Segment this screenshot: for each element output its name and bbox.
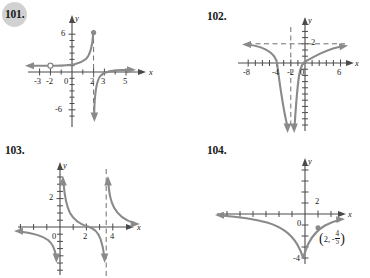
x-tick-label-103-0: 0 [52,231,56,241]
point-annotation-104: (2, -45) [319,231,345,247]
x-axis-label-104: x [348,209,352,219]
y-axis-label-102: y [308,15,312,25]
x-tick-label-101-3: 2 [90,76,94,86]
curve-right-102 [295,47,340,126]
curve-right-arrow-102 [339,43,348,50]
problem-cell-102: 102. [185,0,370,139]
curve-right-up-arrow-103 [104,176,112,186]
problem-grid: 101. [0,0,370,278]
x-tick-label-102-1: -4 [272,67,279,77]
y-axis-label-104: y [308,156,312,166]
point-annotation-close-paren: ) [340,231,345,246]
x-tick-label-103-2: 4 [110,231,114,241]
curve-left-arrow-101 [25,62,34,69]
x-axis-arrow-102 [346,60,354,66]
curve-left-103 [20,232,56,257]
y-tick-label-101-0: 6 [61,28,65,38]
graph-101 [0,0,185,139]
curve-left-down-arrow-102 [284,124,292,134]
labeled-point-104 [316,225,321,230]
problem-cell-103: 103. [0,139,185,278]
y-axis-label-103: y [63,160,67,170]
x-tick-label-101-5: 5 [123,76,127,86]
problem-cell-104: 104. [185,139,370,278]
x-axis-label-102: x [355,58,359,68]
open-point-hole-101 [48,63,53,68]
x-axis-label-101: x [149,67,153,77]
curve-right-103 [108,183,134,223]
curve-left-arrow-102 [242,41,251,48]
curve-middle-down-arrow-103 [101,254,109,264]
y-tick-label-102-0: 2 [311,37,315,47]
y-tick-label-101-1: -6 [55,104,62,114]
curve-left-arrow-103 [14,228,23,235]
x-tick-label-101-0: -3 [34,76,41,86]
y-tick-label-103-0: 2 [49,192,53,202]
graph-103 [0,139,185,278]
problem-cell-101: 101. [0,0,185,139]
curve-right-arrow-104 [336,216,345,223]
y-tick-label-104-0: -4 [293,253,300,263]
graph-104 [185,139,370,278]
y-axis-label-101: y [75,13,79,23]
curve-right-down-arrow-102 [290,124,298,134]
x-axis-arrow-101 [138,69,146,75]
curve-left-101 [29,34,93,66]
x-tick-label-101-2: 0 [64,76,68,86]
x-tick-label-102-2: -2 [287,67,294,77]
x-tick-label-102-0: -8 [243,67,250,77]
x-tick-label-102-4: 6 [337,67,341,77]
x-tick-label-104-1: 2 [315,196,319,206]
curve-left-down-arrow-103 [53,254,61,264]
curve-middle-103 [64,183,105,256]
x-tick-label-103-1: 2 [83,231,87,241]
x-axis-label-103: x [137,222,141,232]
closed-point-101 [91,30,96,35]
x-tick-label-101-1: -2 [46,76,53,86]
x-axis-arrow-104 [338,211,346,217]
curve-left-102 [247,45,287,127]
x-tick-label-101-4: 3 [101,76,105,86]
x-tick-label-104-0: 0 [297,218,301,228]
curve-left-arrow-104 [215,212,224,219]
x-tick-label-102-3: 0 [300,67,304,77]
curve-down-arrow-101 [91,113,99,123]
